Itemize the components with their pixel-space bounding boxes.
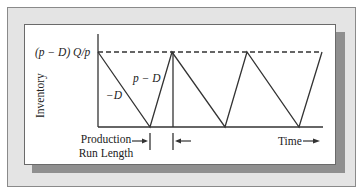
time-arrow-icon [303, 139, 320, 144]
production-label-line2: Run Length [79, 147, 134, 160]
y-axis-label: Inventory [34, 73, 47, 118]
build-up-slope-label: p − D [132, 72, 161, 85]
arrow-right-icon [132, 139, 148, 144]
arrow-left-icon [175, 139, 191, 144]
inventory-sawtooth-diagram: (p − D) Q/p p − D −D Inventory Productio… [0, 0, 363, 194]
depletion-slope-label: −D [106, 89, 123, 101]
inventory-sawtooth-line [98, 52, 322, 127]
max-level-label: (p − D) Q/p [35, 46, 91, 59]
time-label: Time [278, 135, 302, 147]
production-label-line1: Production [81, 133, 132, 145]
